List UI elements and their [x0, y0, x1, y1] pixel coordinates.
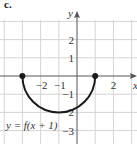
y-axis-arrow-icon	[74, 11, 80, 18]
endpoint-dot	[19, 73, 25, 79]
y-tick-label: 1	[69, 52, 75, 64]
y-tick-label: −3	[62, 125, 74, 137]
x-tick-label: −2	[36, 79, 48, 91]
x-tick-label: 2	[111, 79, 117, 91]
x-axis-label: x	[132, 79, 137, 91]
y-tick-label: −1	[62, 88, 74, 100]
function-label: y = f(x + 1)	[5, 119, 58, 132]
y-tick-label: 2	[69, 34, 75, 46]
y-axis-label: y	[67, 7, 73, 19]
graph: −2−1221−1−2−3 y x y = f(x + 1)	[0, 0, 137, 144]
endpoint-dot	[92, 73, 98, 79]
